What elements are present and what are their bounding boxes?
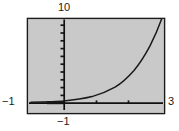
plot-area-background <box>28 19 165 114</box>
y-axis-min-label: −1 <box>57 116 70 127</box>
y-axis-max-label: 10 <box>58 2 70 13</box>
x-axis-max-label: 3 <box>168 96 174 107</box>
x-axis-min-label: −1 <box>2 96 15 107</box>
graph-canvas <box>0 0 179 131</box>
graph-figure: 10 −1 3 −1 <box>0 0 179 131</box>
